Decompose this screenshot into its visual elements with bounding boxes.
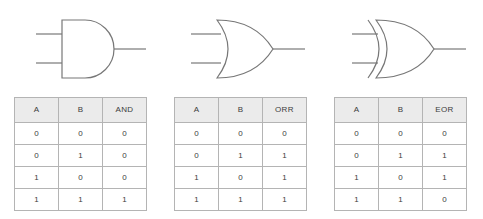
column-header-a: A [175, 98, 219, 123]
cell-a: 1 [335, 189, 379, 211]
cell-b: 1 [59, 189, 103, 211]
column-header-a: A [15, 98, 59, 123]
table-row: 1 0 0 [15, 167, 147, 189]
column-header-a: A [335, 98, 379, 123]
eor-gate-symbol [340, 8, 483, 86]
table-row: 0 0 0 [175, 123, 307, 145]
and-gate-drawing [18, 8, 168, 86]
table-row: 1 0 1 [175, 167, 307, 189]
cell-out: 0 [263, 123, 307, 145]
or-truth-table: A B ORR 0 0 0 0 1 1 1 0 1 1 1 [174, 97, 307, 211]
or-gate-body [217, 20, 273, 78]
cell-out: 1 [423, 145, 467, 167]
cell-a: 1 [175, 189, 219, 211]
and-gate-body [62, 20, 114, 78]
cell-a: 1 [175, 167, 219, 189]
eor-truth-table: A B EOR 0 0 0 0 1 1 1 0 1 1 1 [334, 97, 467, 211]
table-header-row: A B AND [15, 98, 147, 123]
or-gate-symbol [185, 8, 335, 86]
table-row: 1 1 1 [15, 189, 147, 211]
cell-b: 1 [219, 145, 263, 167]
table-header-row: A B EOR [335, 98, 467, 123]
table-row: 1 0 1 [335, 167, 467, 189]
cell-out: 1 [423, 167, 467, 189]
cell-b: 1 [59, 145, 103, 167]
cell-a: 0 [15, 145, 59, 167]
cell-out: 1 [263, 145, 307, 167]
cell-a: 0 [335, 123, 379, 145]
cell-out: 0 [423, 123, 467, 145]
cell-out: 1 [103, 189, 147, 211]
cell-b: 0 [219, 123, 263, 145]
cell-b: 1 [219, 189, 263, 211]
cell-a: 1 [15, 189, 59, 211]
cell-b: 0 [219, 167, 263, 189]
cell-out: 0 [103, 167, 147, 189]
cell-out: 0 [423, 189, 467, 211]
table-row: 0 1 1 [175, 145, 307, 167]
column-header-out: EOR [423, 98, 467, 123]
cell-out: 1 [263, 167, 307, 189]
column-header-out: AND [103, 98, 147, 123]
eor-gate-extra-arc [368, 20, 379, 78]
table-row: 0 1 1 [335, 145, 467, 167]
cell-a: 1 [335, 167, 379, 189]
column-header-b: B [59, 98, 103, 123]
cell-b: 0 [379, 123, 423, 145]
table-row: 1 1 0 [335, 189, 467, 211]
cell-b: 0 [379, 167, 423, 189]
cell-out: 1 [263, 189, 307, 211]
table-row: 0 0 0 [15, 123, 147, 145]
eor-gate-body [376, 20, 434, 78]
cell-a: 0 [175, 145, 219, 167]
table-row: 1 1 1 [175, 189, 307, 211]
column-header-b: B [219, 98, 263, 123]
and-gate-symbol [18, 8, 168, 86]
cell-b: 1 [379, 145, 423, 167]
eor-gate-drawing [340, 8, 483, 86]
cell-out: 0 [103, 123, 147, 145]
or-gate-drawing [185, 8, 335, 86]
and-truth-table: A B AND 0 0 0 0 1 0 1 0 0 1 1 [14, 97, 147, 211]
cell-b: 1 [379, 189, 423, 211]
table-row: 0 0 0 [335, 123, 467, 145]
table-header-row: A B ORR [175, 98, 307, 123]
cell-a: 1 [15, 167, 59, 189]
cell-a: 0 [175, 123, 219, 145]
cell-a: 0 [335, 145, 379, 167]
logic-gates-figure: A B AND 0 0 0 0 1 0 1 0 0 1 1 [0, 0, 483, 219]
cell-a: 0 [15, 123, 59, 145]
cell-b: 0 [59, 167, 103, 189]
column-header-out: ORR [263, 98, 307, 123]
cell-b: 0 [59, 123, 103, 145]
column-header-b: B [379, 98, 423, 123]
table-row: 0 1 0 [15, 145, 147, 167]
cell-out: 0 [103, 145, 147, 167]
